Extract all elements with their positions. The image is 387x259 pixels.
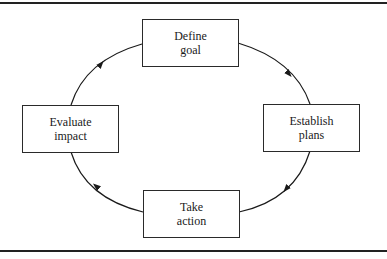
arrow-establish-to-take [239,151,310,212]
node-label-line1: Take [180,200,203,214]
node-label-line1: Evaluate [50,115,92,129]
arrow-define-to-establish [238,43,310,104]
node-take-action: Take action [143,190,240,238]
arrow-take-to-evaluate [71,152,143,212]
node-label-line1: Establish [290,114,334,128]
node-label-line2: plans [299,128,324,142]
node-establish-plans: Establish plans [263,104,360,152]
node-label-line2: action [177,214,206,228]
node-define-goal: Define goal [142,19,239,67]
arrow-evaluate-to-define [71,44,142,105]
node-label-line2: goal [180,43,201,57]
node-label-line2: impact [54,129,87,143]
node-evaluate-impact: Evaluate impact [22,105,119,153]
node-label-line1: Define [174,29,207,43]
